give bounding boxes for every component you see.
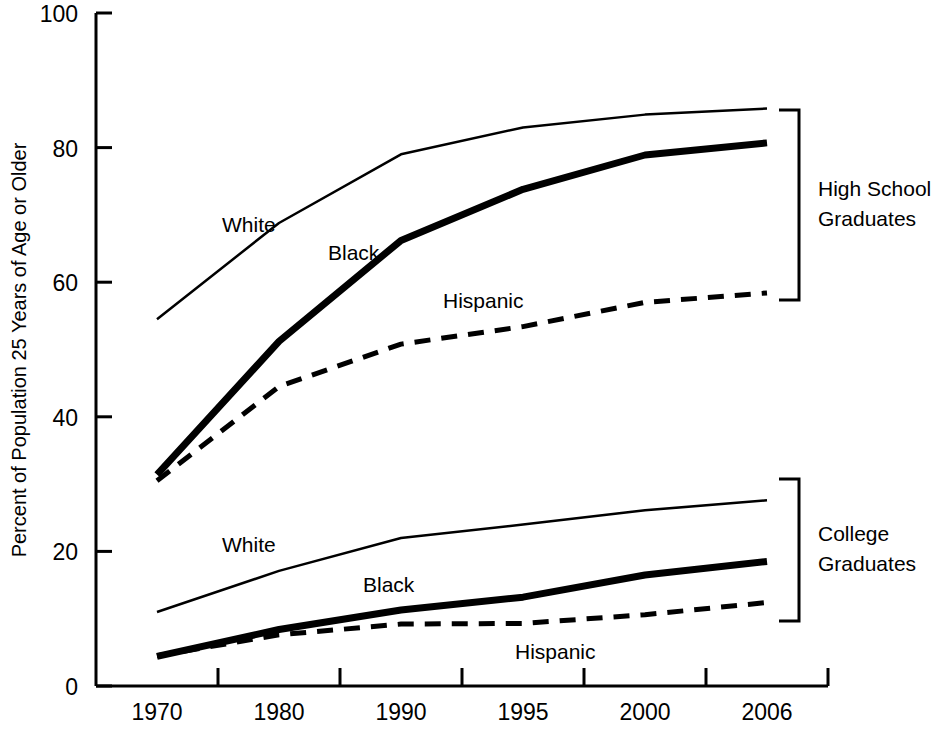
x-tick-label: 2006 [741, 699, 792, 725]
x-tick-group [218, 668, 828, 686]
line-chart-plot: Percent of Population 25 Years of Age or… [0, 0, 942, 747]
y-tick-group: 020406080100 [40, 1, 112, 700]
series-line-hispanic-highschool [157, 293, 767, 481]
group-label-line1: College [818, 522, 889, 545]
group-bracket-college [779, 479, 799, 621]
series-label-black: Black [363, 573, 415, 596]
series-label-white: White [222, 213, 276, 236]
x-tick-label: 1970 [131, 699, 182, 725]
series-line-white-college [157, 500, 767, 612]
series-line-hispanic-college [157, 603, 767, 656]
group-bracket-high-school [779, 110, 799, 300]
y-tick-label: 0 [65, 674, 78, 700]
series-label-hispanic: Hispanic [443, 289, 524, 312]
y-tick-label: 20 [52, 539, 78, 565]
group-label-line2: Graduates [818, 552, 916, 575]
series-label-hispanic: Hispanic [515, 640, 596, 663]
y-tick-label: 80 [52, 136, 78, 162]
y-axis-title: Percent of Population 25 Years of Age or… [8, 142, 30, 557]
y-tick-label: 100 [40, 1, 78, 27]
y-tick-label: 60 [52, 270, 78, 296]
x-tick-label: 1980 [253, 699, 304, 725]
y-tick-label: 40 [52, 405, 78, 431]
series-layer [157, 109, 767, 657]
axes [96, 13, 828, 686]
group-bracket-layer: High SchoolGraduatesCollegeGraduates [779, 110, 931, 621]
x-tick-label-group: 197019801990199520002006 [131, 699, 792, 725]
series-label-black: Black [328, 241, 380, 264]
x-tick-label: 2000 [619, 699, 670, 725]
x-tick-label: 1995 [497, 699, 548, 725]
x-tick-label: 1990 [375, 699, 426, 725]
chart-container: Percent of Population 25 Years of Age or… [0, 0, 942, 747]
group-label-line2: Graduates [818, 207, 916, 230]
series-label-white: White [222, 533, 276, 556]
group-label-line1: High School [818, 177, 931, 200]
